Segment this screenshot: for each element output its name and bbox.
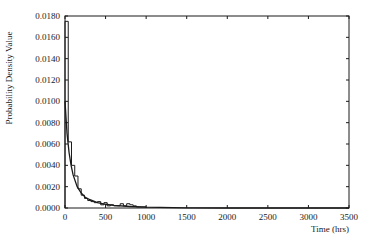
- y-tick-label: 0.0140: [35, 54, 60, 64]
- x-tick-label: 3000: [299, 212, 318, 222]
- y-tick-label: 0.0100: [35, 96, 60, 106]
- x-tick-label: 1500: [178, 212, 197, 222]
- x-tick-label: 2000: [218, 212, 237, 222]
- y-tick-label: 0.0060: [35, 139, 60, 149]
- fitted-curve-series: [65, 101, 349, 208]
- y-axis-label: Probability Density Value: [4, 32, 14, 125]
- x-tick-label: 500: [99, 212, 113, 222]
- data-series: [65, 21, 349, 208]
- plot-frame: [65, 16, 349, 208]
- y-tick-label: 0.0160: [35, 32, 60, 42]
- y-tick-label: 0.0020: [35, 182, 60, 192]
- x-tick-label: 3500: [340, 212, 359, 222]
- x-tick-label: 1000: [137, 212, 156, 222]
- x-tick-label: 0: [63, 212, 68, 222]
- y-tick-label: 0.0080: [35, 118, 60, 128]
- x-axis-ticks: 0500100015002000250030003500: [63, 16, 359, 222]
- x-axis-label: Time (hrs): [311, 224, 349, 234]
- y-tick-label: 0.0120: [35, 75, 60, 85]
- y-axis-ticks: 0.00000.00200.00400.00600.00800.01000.01…: [35, 11, 349, 213]
- histogram-series: [65, 21, 146, 208]
- y-tick-label: 0.0000: [35, 203, 60, 213]
- x-tick-label: 2500: [259, 212, 278, 222]
- y-tick-label: 0.0180: [35, 11, 60, 21]
- density-chart: 0.00000.00200.00400.00600.00800.01000.01…: [0, 0, 377, 241]
- y-tick-label: 0.0040: [35, 160, 60, 170]
